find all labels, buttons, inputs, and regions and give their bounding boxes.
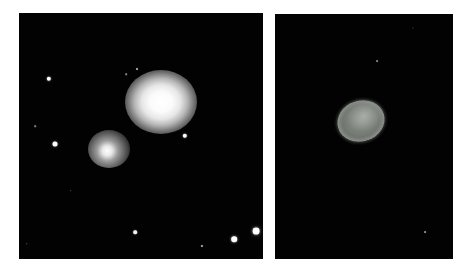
star bbox=[136, 68, 138, 70]
star bbox=[376, 60, 378, 62]
star bbox=[183, 134, 187, 138]
star bbox=[201, 245, 203, 247]
star bbox=[53, 142, 58, 147]
star bbox=[70, 190, 71, 191]
star bbox=[26, 243, 27, 244]
star bbox=[412, 27, 413, 28]
star bbox=[424, 231, 426, 233]
star bbox=[125, 73, 127, 75]
companion-galaxy bbox=[88, 130, 130, 168]
star bbox=[253, 228, 260, 235]
left-image-panel bbox=[19, 13, 263, 259]
star bbox=[47, 77, 51, 81]
right-image-panel bbox=[275, 14, 453, 259]
star bbox=[133, 230, 137, 234]
star bbox=[231, 236, 237, 242]
elliptical-galaxy bbox=[125, 70, 197, 134]
star bbox=[34, 125, 36, 127]
oval-object bbox=[332, 94, 390, 148]
